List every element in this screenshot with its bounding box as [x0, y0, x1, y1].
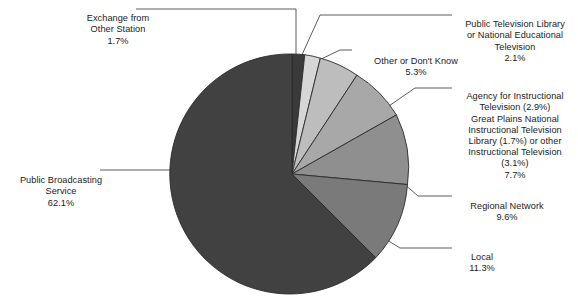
label-local: Local 11.3%: [452, 241, 512, 286]
label-local-pct: 11.3%: [452, 263, 512, 275]
label-regional-text: Regional Network: [470, 201, 543, 211]
label-other-text: Other or Don't Know: [374, 56, 458, 66]
label-pbs-text: Public Broadcasting Service: [20, 175, 102, 196]
label-public-broadcasting-service: Public Broadcasting Service 62.1%: [2, 164, 120, 220]
label-other-pct: 5.3%: [352, 67, 480, 79]
label-agency-text: Agency for Instructional Television (2.9…: [466, 91, 563, 168]
label-exchange-pct: 1.7%: [58, 36, 178, 48]
label-exchange-from-other-station: Exchange from Other Station 1.7%: [58, 2, 178, 58]
label-exchange-text: Exchange from Other Station: [87, 13, 149, 34]
leader-line-agency: [386, 88, 452, 108]
chart-page: Exchange from Other Station 1.7% Public …: [0, 0, 578, 303]
label-regional-pct: 9.6%: [452, 212, 562, 224]
label-local-text: Local: [471, 252, 493, 262]
label-pbs-pct: 62.1%: [2, 198, 120, 210]
label-ptl-text: Public Television Library or National Ed…: [465, 19, 565, 51]
label-regional-network: Regional Network 9.6%: [452, 190, 562, 235]
label-instructional-television: Agency for Instructional Television (2.9…: [452, 80, 578, 192]
label-agency-pct: 7.7%: [452, 170, 578, 182]
